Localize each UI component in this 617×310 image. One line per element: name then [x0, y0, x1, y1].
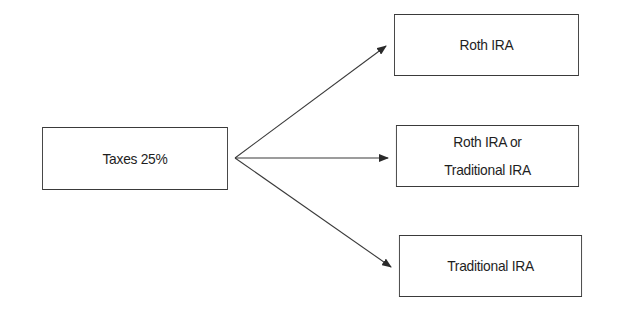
- target-label: Roth IRA: [460, 31, 514, 59]
- target-box-roth-ira: Roth IRA: [394, 14, 579, 76]
- arrow-to-traditional-ira: [235, 158, 391, 267]
- target-label: Traditional IRA: [447, 252, 534, 280]
- arrow-to-roth-ira: [235, 46, 386, 158]
- target-label-line-2: Traditional IRA: [444, 156, 531, 184]
- source-box-taxes: Taxes 25%: [42, 127, 228, 190]
- target-box-traditional-ira: Traditional IRA: [399, 235, 582, 297]
- source-label: Taxes 25%: [102, 145, 167, 173]
- target-box-roth-or-traditional: Roth IRA or Traditional IRA: [396, 125, 579, 187]
- target-label-line-1: Roth IRA or: [453, 128, 521, 156]
